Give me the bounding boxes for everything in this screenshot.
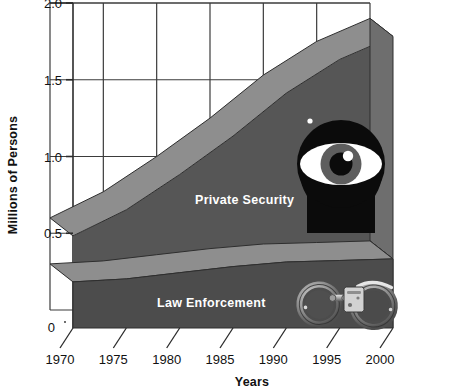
- series-label-private-security: Private Security: [195, 193, 294, 207]
- y-tick-label: 2.0: [44, 0, 62, 11]
- series-label-law-enforcement: Law Enforcement: [157, 296, 266, 310]
- stacked-area-chart: 2.01.51.00.50197019751980198519901995200…: [0, 0, 472, 391]
- x-tick-label: 1975: [99, 352, 128, 367]
- y-tick-label: 1.0: [44, 150, 62, 165]
- x-tick-label: 1990: [259, 352, 288, 367]
- y-axis-title: Millions of Persons: [6, 116, 20, 234]
- zero-marker-dot: [64, 321, 66, 323]
- y-tick-label: 1.5: [44, 73, 62, 88]
- x-axis-title: Years: [235, 375, 269, 389]
- y-tick-label: 0.5: [44, 226, 62, 241]
- x-tick-label: 1985: [206, 352, 235, 367]
- x-tick-label: 1970: [46, 352, 75, 367]
- eye-icon: [297, 118, 385, 233]
- chart-figure: 2.01.51.00.50197019751980198519901995200…: [0, 0, 472, 391]
- x-tick-label: 2000: [366, 352, 395, 367]
- x-tick-label: 1995: [312, 352, 341, 367]
- y-tick-label-zero: 0: [48, 320, 55, 335]
- x-tick-label: 1980: [152, 352, 181, 367]
